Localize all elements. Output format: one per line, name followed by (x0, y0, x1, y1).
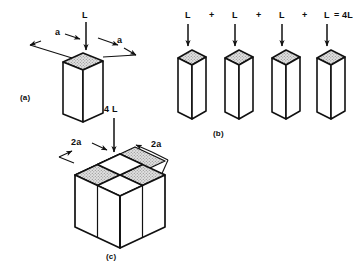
panel-b-group (178, 24, 345, 119)
panel-a-dimension-right-label: a (117, 36, 122, 45)
panel-b-load-label-3: L (279, 11, 285, 20)
panel-c-dimension-left-label: 2a (71, 138, 82, 147)
panel-c-load-label: 4 L (104, 105, 118, 114)
panel-a-load-label: L (82, 11, 88, 20)
panel-b-load-label-2: L (232, 11, 238, 20)
panel-c-block (75, 147, 165, 248)
panel-b-operator-2: + (256, 11, 262, 20)
panel-a-block (63, 53, 103, 122)
panel-a-dimension-left (30, 34, 80, 58)
panel-a-caption: (a) (20, 94, 30, 102)
panel-a-dimension-left-label: a (55, 28, 60, 37)
panel-b-block-4 (317, 50, 345, 119)
panel-b-equals-sign: = (334, 11, 340, 20)
panel-b-caption: (b) (213, 130, 224, 138)
panel-b-load-label-4: L (324, 11, 330, 20)
panel-b-load-arrows (188, 24, 327, 46)
panel-b-operator-3: + (302, 11, 308, 20)
panel-b-load-label-1: L (185, 11, 191, 20)
panel-c-caption: (c) (106, 253, 116, 261)
panel-c-dimension-left (59, 143, 107, 163)
panel-b-block-3 (272, 50, 300, 119)
panel-b-block-1 (178, 50, 206, 119)
panel-b-total-label: 4L (342, 11, 353, 20)
panel-b-block-2 (225, 50, 253, 119)
panel-b-operator-1: + (209, 11, 215, 20)
panel-c-dimension-right-label: 2a (151, 140, 162, 149)
